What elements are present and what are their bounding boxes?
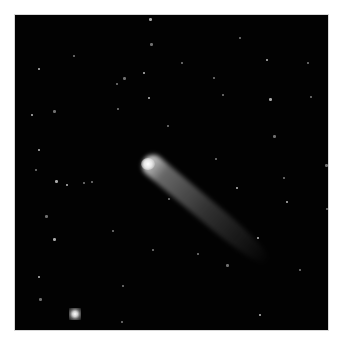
star [149, 18, 152, 21]
star [35, 169, 37, 171]
star [91, 181, 93, 183]
star [121, 321, 123, 323]
star [150, 43, 153, 46]
star [31, 114, 33, 116]
star [83, 182, 85, 184]
star [299, 269, 301, 271]
star [239, 37, 241, 39]
star [148, 97, 150, 99]
star [307, 62, 309, 64]
star [143, 72, 145, 74]
star [167, 125, 169, 127]
bright-star [69, 308, 81, 320]
star [112, 230, 114, 232]
star [39, 298, 42, 301]
star [53, 110, 56, 113]
star [116, 83, 118, 85]
star [310, 96, 312, 98]
star [197, 253, 199, 255]
comet-head [141, 158, 155, 170]
star [38, 68, 40, 70]
star [326, 208, 328, 210]
star [213, 77, 215, 79]
star [117, 108, 119, 110]
star [45, 215, 48, 218]
star [226, 264, 229, 267]
star [38, 149, 40, 151]
star [325, 164, 328, 167]
star [266, 59, 268, 61]
comet-tail [138, 150, 275, 270]
star [257, 237, 259, 239]
star [168, 198, 170, 200]
star [152, 249, 154, 251]
star [55, 180, 58, 183]
star [222, 94, 224, 96]
star [73, 55, 75, 57]
star [236, 187, 238, 189]
star [66, 184, 68, 186]
star [215, 158, 217, 160]
star [269, 98, 272, 101]
star [122, 285, 124, 287]
star [181, 62, 183, 64]
star [123, 77, 126, 80]
star [38, 276, 40, 278]
comet-photo [14, 14, 329, 331]
star [273, 135, 276, 138]
star [53, 238, 56, 241]
star [283, 177, 285, 179]
star [286, 201, 288, 203]
star [259, 314, 261, 316]
